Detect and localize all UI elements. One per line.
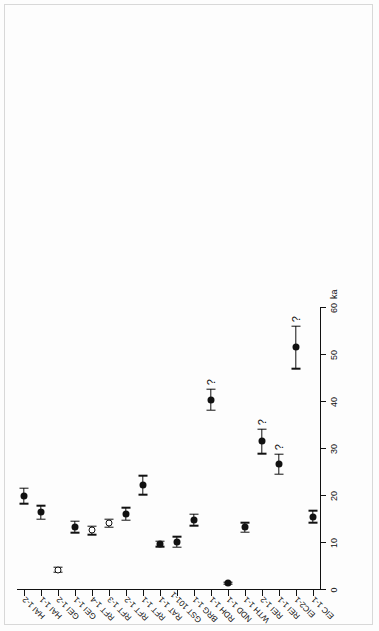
y-tick [160,590,161,596]
x-tick [320,354,326,355]
x-tick [320,589,326,590]
y-tick [143,590,144,596]
error-bar-cap [258,429,267,430]
error-bar-cap [173,547,182,548]
x-tick [320,495,326,496]
error-bar-cap [207,389,216,390]
error-bar-cap [309,522,318,523]
data-point [106,520,113,527]
error-bar-cap [139,475,148,476]
error-bar-cap [37,518,46,519]
figure-page: ka 0102030405060 HAI 1-2HAI 1-1GEI 1-2GE… [0,0,379,631]
error-bar-cap [71,521,80,522]
data-point [157,540,164,547]
data-point [123,510,130,517]
uncertainty-flag: ? [273,444,285,450]
x-tick [320,307,326,308]
x-tick [320,401,326,402]
data-point [242,524,249,531]
uncertainty-flag: ? [290,316,302,322]
error-bar-cap [292,368,301,369]
y-tick [126,590,127,596]
data-point [55,566,62,573]
x-tick-label: 0 [329,587,339,592]
x-tick-label: 50 [329,350,339,360]
error-bar-cap [20,488,29,489]
error-bar-cap [309,510,318,511]
data-point [225,580,232,587]
y-tick [41,590,42,596]
x-tick [320,448,326,449]
y-tick [92,590,93,596]
error-bar-cap [275,453,284,454]
x-tick-label: 30 [329,444,339,454]
uncertainty-flag: ? [256,419,268,425]
data-point [310,513,317,520]
y-tick [279,590,280,596]
x-tick-label: 20 [329,491,339,501]
y-tick [109,590,110,596]
error-bar-cap [241,532,250,533]
data-point [72,524,79,531]
dot-plot-chart: ka 0102030405060 HAI 1-2HAI 1-1GEI 1-2GE… [0,0,379,631]
uncertainty-flag: ? [205,379,217,385]
x-axis-line [320,308,321,590]
error-bar-cap [292,326,301,327]
x-tick-label: 60 [329,303,339,313]
y-axis-line [17,589,320,590]
error-bar-cap [258,453,267,454]
error-bar-cap [20,503,29,504]
data-point [140,482,147,489]
error-bar-cap [207,409,216,410]
error-bar-cap [122,519,131,520]
error-bar-cap [173,536,182,537]
x-tick-label: 10 [329,538,339,548]
error-bar-cap [139,494,148,495]
data-point [259,438,266,445]
data-point [38,509,45,516]
error-bar-cap [71,532,80,533]
data-point [191,516,198,523]
data-point [174,539,181,546]
x-tick-label: 40 [329,397,339,407]
error-bar-cap [88,534,97,535]
data-point [293,344,300,351]
y-tick [228,590,229,596]
rotated-figure-container: ka 0102030405060 HAI 1-2HAI 1-1GEI 1-2GE… [0,0,379,631]
data-point [208,396,215,403]
y-tick [262,590,263,596]
y-tick [194,590,195,596]
y-tick [245,590,246,596]
data-point [276,461,283,468]
error-bar-cap [190,525,199,526]
y-tick [296,590,297,596]
data-point [21,493,28,500]
x-axis-label: ka [329,289,339,299]
error-bar-cap [122,507,131,508]
y-tick [58,590,59,596]
y-tick [211,590,212,596]
data-point [89,527,96,534]
y-tick [24,590,25,596]
x-tick [320,542,326,543]
error-bar-cap [275,473,284,474]
y-tick [75,590,76,596]
error-bar-cap [190,514,199,515]
y-tick [313,590,314,596]
error-bar-cap [37,505,46,506]
